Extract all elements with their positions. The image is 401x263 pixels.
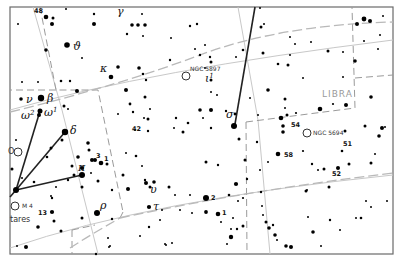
star bbox=[237, 200, 239, 202]
star bbox=[355, 217, 357, 219]
star bbox=[263, 23, 265, 25]
star bbox=[242, 197, 244, 199]
star bbox=[139, 235, 141, 237]
star bbox=[198, 108, 202, 112]
star bbox=[53, 220, 56, 223]
star bbox=[287, 64, 290, 67]
star bbox=[342, 51, 344, 53]
star bbox=[55, 186, 57, 188]
star bbox=[281, 130, 285, 134]
star bbox=[33, 181, 36, 184]
star bbox=[130, 23, 134, 27]
star bbox=[257, 114, 259, 116]
star bbox=[187, 122, 190, 125]
star bbox=[189, 25, 191, 27]
star bbox=[165, 244, 167, 246]
star bbox=[244, 159, 247, 162]
star bbox=[97, 180, 100, 183]
star bbox=[86, 141, 90, 145]
star bbox=[230, 228, 232, 230]
star bbox=[13, 187, 19, 193]
star bbox=[61, 139, 64, 142]
star bbox=[21, 81, 23, 83]
star bbox=[363, 40, 365, 42]
star-greek-label: σ bbox=[226, 108, 234, 121]
star-number-label: 54 bbox=[291, 121, 301, 129]
star bbox=[273, 233, 277, 237]
star bbox=[81, 217, 84, 220]
star bbox=[126, 33, 128, 35]
star bbox=[229, 235, 233, 239]
star bbox=[171, 242, 173, 244]
star bbox=[234, 113, 237, 116]
star bbox=[289, 245, 293, 249]
star bbox=[209, 56, 211, 58]
star-number-label: 3 bbox=[96, 152, 101, 160]
star-number-label: 51 bbox=[343, 140, 353, 148]
star bbox=[11, 168, 14, 171]
star-number-label: 2 bbox=[211, 194, 216, 202]
star bbox=[116, 65, 120, 69]
star bbox=[126, 187, 130, 191]
star bbox=[65, 8, 67, 10]
star-greek-label: κ bbox=[99, 62, 108, 75]
star bbox=[284, 107, 286, 109]
star-number-label: 1 bbox=[104, 155, 109, 163]
star-number-label: 1 bbox=[222, 209, 227, 217]
star bbox=[242, 225, 245, 228]
star-number-label: 13 bbox=[38, 209, 47, 217]
star bbox=[339, 229, 341, 231]
star bbox=[50, 147, 53, 150]
star bbox=[369, 95, 373, 99]
star bbox=[189, 194, 191, 196]
star bbox=[21, 177, 23, 179]
star bbox=[249, 97, 251, 99]
star bbox=[246, 178, 248, 180]
star bbox=[265, 221, 268, 224]
star-greek-label: ν bbox=[26, 93, 33, 106]
star bbox=[37, 81, 39, 83]
star bbox=[311, 230, 315, 234]
star bbox=[52, 17, 55, 20]
star bbox=[259, 7, 261, 9]
deep-sky-object-label: NGC 5694 bbox=[313, 129, 344, 136]
star bbox=[122, 174, 125, 177]
star bbox=[67, 108, 69, 110]
star bbox=[36, 225, 40, 229]
star bbox=[142, 35, 144, 37]
star bbox=[370, 162, 373, 165]
deep-sky-object-icon bbox=[11, 202, 19, 210]
star bbox=[307, 216, 309, 218]
star bbox=[370, 206, 372, 208]
star bbox=[260, 26, 263, 29]
star bbox=[355, 22, 359, 26]
star bbox=[93, 13, 95, 15]
star bbox=[38, 95, 44, 101]
star bbox=[107, 237, 109, 239]
star bbox=[141, 13, 143, 15]
star bbox=[238, 138, 241, 141]
star bbox=[124, 88, 128, 92]
star bbox=[236, 228, 238, 230]
star bbox=[360, 217, 363, 220]
star bbox=[216, 94, 218, 96]
star-number-label: 52 bbox=[332, 170, 341, 178]
star bbox=[51, 197, 53, 199]
star bbox=[256, 141, 258, 143]
star bbox=[231, 123, 237, 129]
star bbox=[16, 245, 18, 247]
star bbox=[235, 56, 237, 58]
star bbox=[109, 75, 114, 80]
star-greek-label: π bbox=[77, 161, 86, 174]
star-number-label: 48 bbox=[34, 7, 44, 15]
star bbox=[147, 205, 151, 209]
star bbox=[382, 15, 384, 17]
star bbox=[289, 54, 291, 56]
star-greek-label: υ bbox=[150, 183, 157, 196]
deep-sky-object-icon bbox=[14, 148, 22, 156]
star bbox=[44, 15, 49, 20]
star bbox=[143, 23, 147, 27]
star bbox=[261, 205, 263, 207]
star bbox=[203, 195, 209, 201]
star bbox=[147, 130, 149, 132]
